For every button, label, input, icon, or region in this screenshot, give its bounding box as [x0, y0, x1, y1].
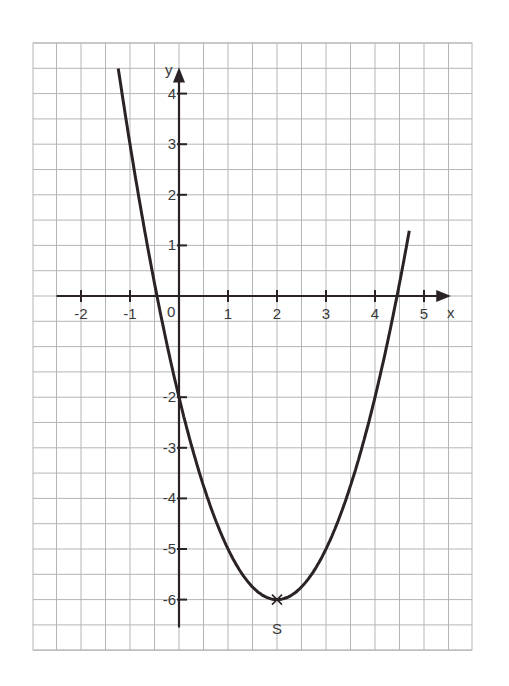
grid: [33, 43, 472, 650]
x-tick-label: 4: [371, 305, 379, 322]
x-axis-label: x: [447, 304, 455, 321]
y-axis-label: y: [165, 61, 173, 78]
series: [118, 68, 409, 599]
x-tick-label: 3: [322, 305, 330, 322]
y-tick-label: -2: [163, 388, 176, 405]
y-tick-label: 3: [168, 135, 176, 152]
x-tick-label: 2: [273, 305, 281, 322]
x-tick-label: 1: [224, 305, 232, 322]
axes: xy: [57, 61, 455, 628]
parabola-chart: xy -2-1123454321-2-3-4-5-60 S: [0, 0, 509, 686]
parabola-curve: [118, 68, 409, 599]
y-tick-label: 2: [168, 186, 176, 203]
y-tick-label: 1: [168, 236, 176, 253]
y-tick-label: 4: [168, 85, 176, 102]
y-tick-label: -6: [163, 591, 176, 608]
x-tick-label: -2: [74, 305, 87, 322]
vertex-label: S: [272, 620, 282, 637]
y-tick-label: -3: [163, 439, 176, 456]
y-tick-label: -5: [163, 540, 176, 557]
x-tick-label: -1: [123, 305, 136, 322]
origin-label: 0: [167, 303, 175, 320]
x-tick-label: 5: [420, 305, 428, 322]
y-axis-arrow-icon: [173, 67, 185, 82]
y-tick-label: -4: [163, 489, 176, 506]
